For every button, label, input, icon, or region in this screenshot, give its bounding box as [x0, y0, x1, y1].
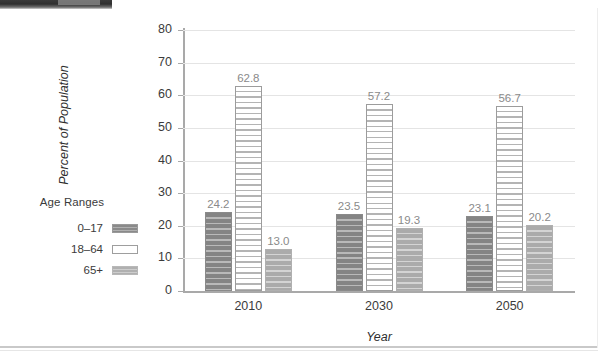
bar-2030-0–17[interactable]: 23.5 — [336, 214, 363, 291]
page-border-bottom-light — [0, 350, 598, 351]
legend-item-label: 65+ — [83, 264, 103, 276]
legend-title: Age Ranges — [6, 196, 138, 208]
bar-value-label: 56.7 — [498, 92, 520, 104]
bar-value-label: 24.2 — [207, 198, 229, 210]
bar-value-label: 13.0 — [267, 235, 289, 247]
scan-artifact-top-left — [0, 0, 112, 9]
y-axis-tick-label: 70 — [146, 55, 172, 69]
page-border-bottom — [0, 346, 598, 348]
legend-item-65plus[interactable]: 65+ — [6, 261, 138, 279]
y-axis-tick-label: 20 — [146, 218, 172, 232]
y-axis-tick-label: 30 — [146, 185, 172, 199]
bar-2010-0–17[interactable]: 24.2 — [205, 212, 232, 291]
y-axis-tick — [178, 291, 183, 292]
plot-area: 24.262.813.023.557.219.323.156.720.2 — [183, 30, 575, 291]
bar-2050-18–64[interactable]: 56.7 — [496, 106, 523, 291]
legend-swatch-65plus-icon — [112, 266, 138, 275]
bar-value-label: 19.3 — [398, 214, 420, 226]
legend-item-label: 0–17 — [77, 222, 103, 234]
y-axis-tick-label: 40 — [146, 153, 172, 167]
x-axis-title: Year — [183, 330, 575, 344]
bar-value-label: 20.2 — [528, 211, 550, 223]
chart-legend: Age Ranges 0–17 18–64 65+ — [6, 196, 138, 282]
bar-group-2050: 23.156.720.2 — [466, 30, 553, 291]
bar-value-label: 23.1 — [468, 202, 490, 214]
y-axis-title: Percent of Population — [57, 35, 71, 215]
bar-value-label: 23.5 — [338, 200, 360, 212]
legend-swatch-0-17-icon — [112, 224, 138, 233]
legend-item-0-17[interactable]: 0–17 — [6, 219, 138, 237]
legend-item-18-64[interactable]: 18–64 — [6, 240, 138, 258]
bar-2030-65+[interactable]: 19.3 — [396, 228, 423, 291]
legend-item-label: 18–64 — [71, 243, 103, 255]
bar-2010-65+[interactable]: 13.0 — [265, 249, 292, 291]
bar-2010-18–64[interactable]: 62.8 — [235, 86, 262, 291]
x-axis-category-label: 2050 — [450, 299, 570, 313]
bar-2030-18–64[interactable]: 57.2 — [366, 104, 393, 291]
bar-2050-65+[interactable]: 20.2 — [526, 225, 553, 291]
x-axis-category-label: 2030 — [319, 299, 439, 313]
scan-artifact-speck — [58, 0, 100, 5]
chart-page: Age Ranges 0–17 18–64 65+ Percent of Pop… — [0, 0, 598, 356]
y-axis-tick-label: 60 — [146, 87, 172, 101]
bar-value-label: 57.2 — [368, 90, 390, 102]
bar-group-2010: 24.262.813.0 — [205, 30, 292, 291]
bar-group-2030: 23.557.219.3 — [336, 30, 423, 291]
legend-swatch-18-64-icon — [112, 245, 138, 254]
x-axis-line — [183, 291, 575, 293]
bar-value-label: 62.8 — [237, 72, 259, 84]
y-axis-tick-label: 10 — [146, 250, 172, 264]
y-axis-tick-label: 80 — [146, 22, 172, 36]
x-axis-category-label: 2010 — [188, 299, 308, 313]
y-axis-tick-label: 50 — [146, 120, 172, 134]
y-axis-tick-label: 0 — [146, 283, 172, 297]
bar-2050-0–17[interactable]: 23.1 — [466, 216, 493, 291]
